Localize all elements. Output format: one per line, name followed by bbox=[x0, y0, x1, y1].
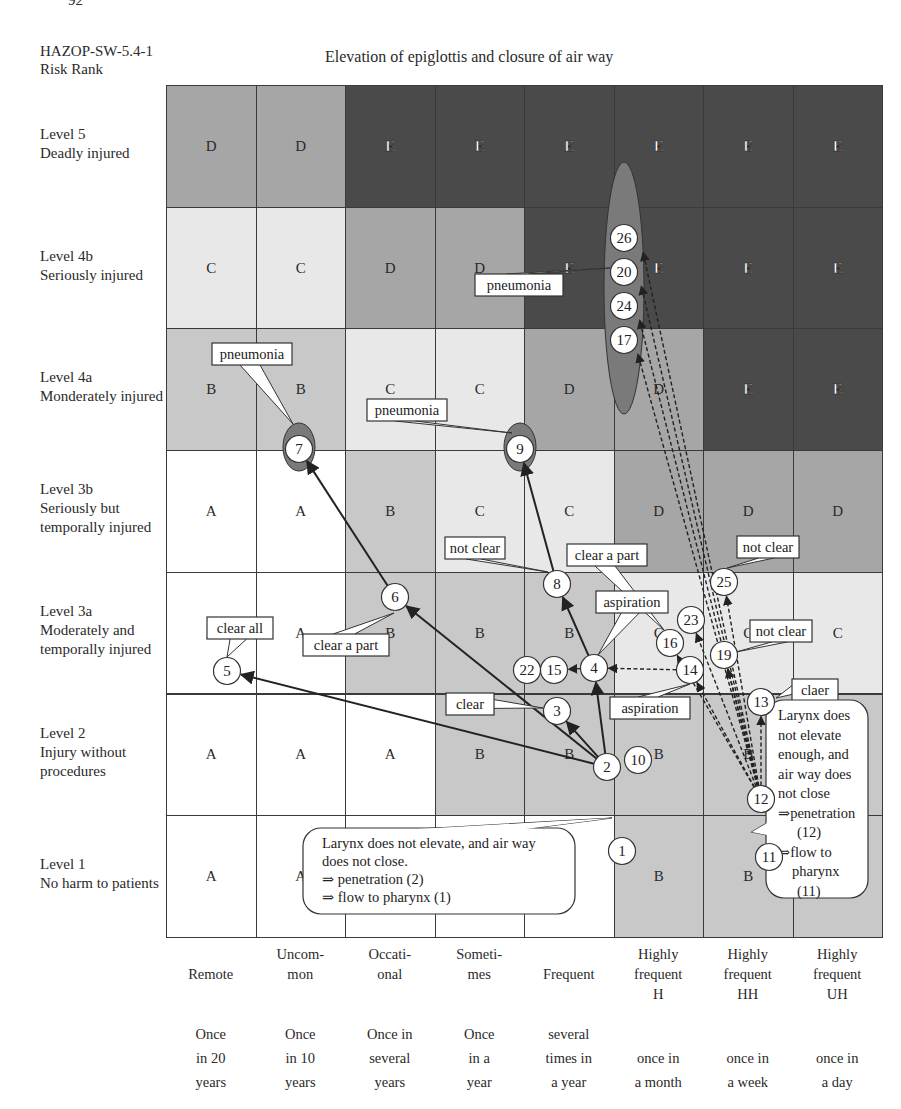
event-node-15: 15 bbox=[541, 657, 568, 684]
bubble-line: not elevate bbox=[778, 727, 841, 743]
event-node-number: 26 bbox=[617, 230, 633, 246]
callout-label: pneumonia bbox=[375, 402, 440, 418]
transition-arrow bbox=[563, 597, 589, 655]
callout-label: clear bbox=[456, 696, 484, 712]
event-node-6: 6 bbox=[382, 584, 409, 611]
event-node-22: 22 bbox=[514, 657, 541, 684]
callout-aspiration: aspiration bbox=[610, 684, 690, 719]
event-node-number: 6 bbox=[391, 589, 399, 605]
event-node-16: 16 bbox=[657, 630, 684, 657]
event-node-20: 20 bbox=[611, 259, 638, 286]
transition-arrow bbox=[307, 461, 388, 586]
risk-transition-overlay: pneumoniapneumoniapneumonianot clearclea… bbox=[0, 0, 901, 1109]
bubble-line: (12) bbox=[797, 824, 821, 841]
callout-label: clear a part bbox=[575, 547, 639, 563]
event-node-11: 11 bbox=[756, 844, 783, 871]
event-node-number: 23 bbox=[684, 612, 699, 628]
callout-pneumonia: pneumonia bbox=[367, 399, 512, 433]
event-node-number: 7 bbox=[295, 441, 303, 457]
callout-not-clear: not clear bbox=[445, 537, 548, 572]
event-node-1: 1 bbox=[609, 838, 636, 865]
event-node-13: 13 bbox=[748, 689, 775, 716]
event-node-number: 25 bbox=[717, 574, 732, 590]
callout-label: not clear bbox=[743, 539, 793, 555]
callout-claer: claer bbox=[776, 679, 838, 701]
callout-pneumonia: pneumonia bbox=[212, 343, 293, 424]
bubble-line: air way does bbox=[778, 766, 852, 782]
callout-label: not clear bbox=[756, 623, 806, 639]
event-node-number: 9 bbox=[516, 441, 524, 457]
callout-label: pneumonia bbox=[487, 277, 552, 293]
transition-arrow bbox=[596, 682, 605, 753]
event-node-number: 4 bbox=[590, 660, 598, 676]
bubble-line: ⇒ penetration (2) bbox=[322, 871, 424, 888]
event-node-26: 26 bbox=[611, 225, 638, 252]
event-node-number: 2 bbox=[603, 759, 611, 775]
callout-pneumonia: pneumonia bbox=[475, 268, 610, 296]
callout-not-clear: not clear bbox=[736, 620, 812, 652]
event-node-number: 17 bbox=[617, 332, 633, 348]
event-node-25: 25 bbox=[711, 569, 738, 596]
event-node-17: 17 bbox=[611, 327, 638, 354]
event-node-2: 2 bbox=[594, 754, 621, 781]
event-node-number: 22 bbox=[520, 662, 535, 678]
bubble-larynx-no-elevate: Larynx does not elevate, and air waydoes… bbox=[303, 818, 612, 914]
callout-label: clear all bbox=[217, 620, 263, 636]
bubble-line: does not close. bbox=[322, 853, 408, 869]
event-node-number: 11 bbox=[762, 849, 776, 865]
callout-clear-a-part: clear a part bbox=[303, 613, 394, 656]
event-node-number: 5 bbox=[223, 663, 231, 679]
event-node-4: 4 bbox=[581, 655, 608, 682]
transition-arrow bbox=[638, 354, 758, 786]
bubble-line: pharynx bbox=[792, 863, 840, 879]
event-node-24: 24 bbox=[611, 293, 638, 320]
callout-clear-all: clear all bbox=[207, 617, 273, 657]
bubble-line: Larynx does bbox=[778, 707, 850, 723]
event-node-number: 3 bbox=[553, 703, 561, 719]
bubble-line: Larynx does not elevate, and air way bbox=[322, 835, 537, 851]
event-node-number: 8 bbox=[553, 576, 561, 592]
event-node-number: 24 bbox=[617, 298, 633, 314]
event-node-number: 13 bbox=[754, 694, 769, 710]
callout-clear-a-part: clear a part bbox=[567, 544, 664, 630]
event-node-number: 10 bbox=[631, 752, 646, 768]
event-node-number: 14 bbox=[683, 662, 699, 678]
event-node-7: 7 bbox=[286, 436, 313, 463]
callout-label: claer bbox=[801, 682, 829, 698]
callout-label: pneumonia bbox=[220, 346, 285, 362]
bubble-line: not close bbox=[778, 785, 830, 801]
bubble-line: enough, and bbox=[778, 746, 850, 762]
transition-arrow bbox=[406, 606, 596, 758]
event-node-23: 23 bbox=[678, 607, 705, 634]
event-node-3: 3 bbox=[544, 698, 571, 725]
event-node-number: 15 bbox=[547, 662, 562, 678]
event-node-number: 1 bbox=[618, 843, 626, 859]
bubble-line: ⇒ flow to pharynx (1) bbox=[322, 889, 451, 906]
event-node-14: 14 bbox=[677, 657, 704, 684]
event-node-12: 12 bbox=[748, 786, 775, 813]
event-node-19: 19 bbox=[711, 642, 738, 669]
event-node-9: 9 bbox=[507, 436, 534, 463]
bubble-line: ⇒penetration bbox=[778, 805, 856, 821]
transition-arrow bbox=[568, 669, 580, 670]
callout-not-clear: not clear bbox=[727, 536, 799, 568]
pneumonia-cluster-ellipse bbox=[604, 162, 644, 414]
event-node-5: 5 bbox=[214, 658, 241, 685]
event-node-number: 20 bbox=[617, 264, 632, 280]
callout-label: aspiration bbox=[621, 700, 679, 716]
bubble-line: ⇒flow to bbox=[778, 844, 832, 860]
event-node-number: 12 bbox=[754, 791, 769, 807]
callout-label: clear a part bbox=[314, 637, 378, 653]
event-node-8: 8 bbox=[544, 571, 571, 598]
callout-label: aspiration bbox=[603, 594, 661, 610]
bubble-line: (11) bbox=[797, 883, 821, 900]
event-node-number: 19 bbox=[717, 647, 732, 663]
transition-arrow bbox=[524, 463, 554, 571]
event-node-number: 16 bbox=[663, 635, 679, 651]
event-node-10: 10 bbox=[625, 747, 652, 774]
transition-arrow bbox=[241, 675, 594, 764]
transition-arrow bbox=[608, 668, 676, 669]
callout-label: not clear bbox=[450, 540, 500, 556]
